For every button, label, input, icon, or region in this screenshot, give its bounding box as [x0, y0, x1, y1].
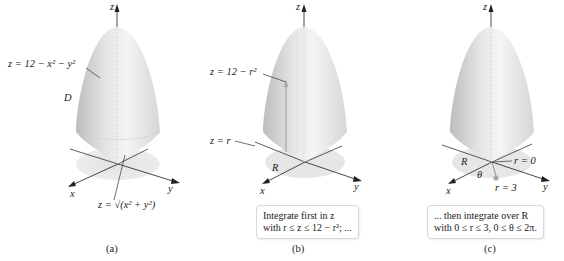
upper-surface-label: z = 12 − r²	[210, 67, 257, 78]
x-axis-label: x	[260, 186, 265, 197]
x-axis-arrow-icon	[68, 181, 76, 187]
z-axis-arrow-icon	[302, 4, 307, 12]
z-axis-label: z	[483, 2, 487, 13]
z-axis-arrow-icon	[115, 4, 120, 12]
z-axis-label: z	[110, 2, 114, 13]
lower-surface-label: z = √(x² + y²)	[98, 200, 155, 211]
step-note-c-line1: ... then integrate over R	[434, 210, 537, 222]
caption-c: (c)	[484, 243, 496, 254]
z-axis-label: z	[296, 2, 300, 13]
caption-a: (a)	[106, 243, 118, 254]
step-note-b-line2: with r ≤ z ≤ 12 − r²; ...	[263, 222, 352, 234]
z-axis-arrow-icon	[489, 4, 494, 12]
r-inner-label: r = 0	[514, 156, 536, 167]
caption-b: (b)	[292, 243, 304, 254]
region-r-label: R	[461, 157, 467, 168]
paraboloid-surface	[76, 27, 160, 164]
paraboloid-cone-figure-a	[0, 0, 190, 261]
r-outer-label: r = 3	[495, 183, 517, 194]
step-note-b-line1: Integrate first in z	[263, 210, 352, 222]
x-axis-label: x	[70, 189, 75, 200]
lower-surface-label: z = r	[210, 136, 231, 147]
step-note-c: ... then integrate over R with 0 ≤ r ≤ 3…	[427, 205, 544, 239]
panel-b: z x y z = 12 − r² z = r R Integrate firs…	[190, 0, 380, 261]
r-point-marker	[493, 175, 498, 180]
x-axis-label: x	[446, 186, 451, 197]
panel-c: z x y R θ r = 0 r = 3 ... then integrate…	[380, 0, 564, 261]
y-axis-label: y	[543, 182, 548, 193]
y-axis-label: y	[354, 182, 359, 193]
paraboloid-surface	[450, 27, 534, 162]
step-note-c-line2: with 0 ≤ r ≤ 3, 0 ≤ θ ≤ 2π.	[434, 222, 537, 234]
x-axis-arrow-icon	[448, 178, 456, 184]
region-r-label: R	[272, 163, 278, 174]
theta-label: θ	[477, 170, 482, 181]
y-axis-label: y	[168, 184, 173, 195]
x-axis-arrow-icon	[262, 178, 270, 184]
region-d-label: D	[64, 93, 72, 104]
upper-surface-label: z = 12 − x² − y²	[8, 59, 75, 70]
step-note-b: Integrate first in z with r ≤ z ≤ 12 − r…	[256, 205, 359, 239]
paraboloid-surface	[263, 27, 347, 162]
panel-a: z x y z = 12 − x² − y² D z = √(x² + y²) …	[0, 0, 190, 261]
